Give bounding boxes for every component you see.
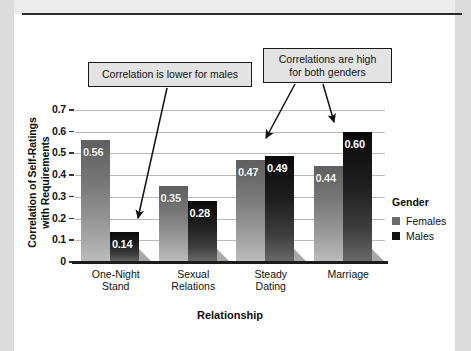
legend-item: Males (392, 230, 446, 242)
bar-males-3 (343, 132, 372, 262)
annotation-line-1: Correlations are high (279, 53, 376, 65)
x-tick-line: One-Night (92, 268, 140, 280)
legend-swatch (392, 217, 400, 225)
annotation-callout-males: Correlation is lower for males (88, 62, 252, 87)
legend-label: Males (406, 230, 434, 242)
x-axis-tick-label: Marriage (305, 268, 391, 280)
y-axis-tick-label: 0.5 (34, 146, 66, 158)
x-axis-title: Relationship (130, 309, 330, 321)
y-axis-tick-label: 0.3 (34, 190, 66, 202)
y-axis-tick-label: 0.7 (34, 103, 66, 115)
x-tick-line: Steady (254, 268, 287, 280)
y-axis-tick-mark (69, 174, 74, 176)
x-axis-tick-label: One-NightStand (73, 268, 159, 292)
bar-value-label: 0.56 (83, 146, 103, 158)
x-axis-tick-label: SteadyDating (228, 268, 314, 292)
y-axis-title-line1: Correlation of Self-Ratings (26, 117, 38, 247)
x-tick-line: Marriage (328, 268, 369, 280)
x-tick-line: Dating (256, 280, 286, 292)
legend: Gender FemalesMales (392, 196, 446, 245)
y-axis-tick-mark (69, 152, 74, 154)
legend-label: Females (406, 215, 446, 227)
y-axis-tick-label: 0 (34, 255, 66, 267)
bar-value-label: 0.35 (161, 192, 181, 204)
y-axis-tick-mark (69, 109, 74, 111)
bar-value-label: 0.14 (112, 238, 132, 250)
y-axis-tick-mark (69, 131, 74, 133)
bar-value-label: 0.60 (345, 138, 365, 150)
x-tick-line: Stand (102, 280, 129, 292)
x-axis-baseline (72, 261, 388, 264)
bar-value-label: 0.47 (238, 166, 258, 178)
y-axis-tick-label: 0.2 (34, 212, 66, 224)
plot-area: 0.560.140.350.280.470.490.440.60 (75, 110, 385, 262)
annotation-callout-both-genders: Correlations are high for both genders (263, 48, 392, 83)
x-tick-line: Sexual (177, 268, 209, 280)
x-axis-tick-label: SexualRelations (150, 268, 236, 292)
bar-value-label: 0.44 (316, 172, 336, 184)
y-axis-tick-mark (69, 239, 74, 241)
annotation-callout-males-text: Correlation is lower for males (102, 68, 238, 81)
bar-females-0 (81, 140, 110, 262)
bar-chart-figure: Correlation of Self-Ratings with Require… (0, 0, 471, 351)
legend-item: Females (392, 215, 446, 227)
y-axis-tick-label: 0.4 (34, 168, 66, 180)
bar-value-label: 0.28 (190, 207, 210, 219)
annotation-line-2: for both genders (289, 66, 365, 78)
page-background: Correlation of Self-Ratings with Require… (0, 0, 471, 351)
x-tick-line: Relations (171, 280, 215, 292)
bar-value-label: 0.49 (267, 162, 287, 174)
annotation-callout-both-genders-text: Correlations are high for both genders (279, 53, 376, 78)
y-axis-tick-label: 0.6 (34, 125, 66, 137)
y-axis-tick-mark (69, 218, 74, 220)
legend-items: FemalesMales (392, 215, 446, 242)
legend-title: Gender (392, 196, 446, 208)
y-axis-title: Correlation of Self-Ratings with Require… (26, 93, 51, 273)
legend-swatch (392, 232, 400, 240)
y-axis-tick-label: 0.1 (34, 233, 66, 245)
y-axis-tick-mark (69, 196, 74, 198)
